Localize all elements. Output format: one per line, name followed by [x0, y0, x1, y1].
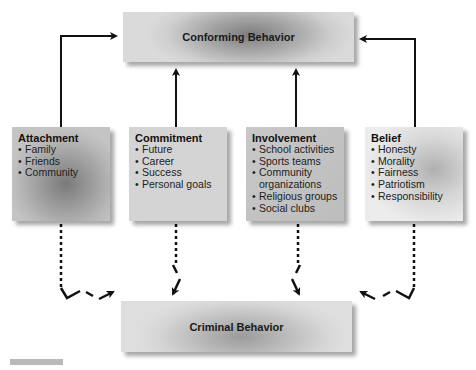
factor-item: School activities [252, 144, 338, 156]
conforming-behavior-box: Conforming Behavior [123, 12, 354, 62]
factor-commitment: Commitment Future Career Success Persona… [129, 127, 227, 221]
factor-item: Family [18, 144, 104, 156]
criminal-behavior-box: Criminal Behavior [121, 301, 352, 352]
factor-item: Social clubs [252, 203, 338, 215]
figure-footer-bar [10, 359, 63, 365]
factor-item: Religious groups [252, 191, 338, 203]
factor-item: Community [18, 167, 104, 179]
factor-involvement: Involvement School activities Sports tea… [246, 127, 344, 221]
factor-belief: Belief Honesty Morality Fairness Patriot… [365, 127, 463, 221]
factor-item: Honesty [371, 144, 457, 156]
factor-attachment: Attachment Family Friends Community [12, 127, 110, 221]
factor-item: Personal goals [135, 179, 221, 191]
factor-item: Responsibility [371, 191, 457, 203]
factor-item: Future [135, 144, 221, 156]
conforming-behavior-label: Conforming Behavior [182, 31, 294, 43]
criminal-behavior-label: Criminal Behavior [189, 321, 283, 333]
dashed-arrows [61, 224, 414, 299]
factor-item: Community organizations [252, 167, 338, 190]
